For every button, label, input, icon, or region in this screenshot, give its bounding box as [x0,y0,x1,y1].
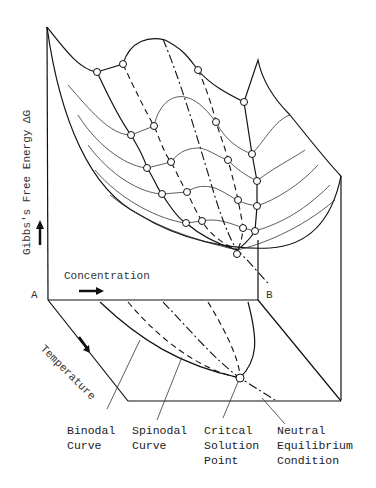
svg-text:Point: Point [204,454,239,467]
x-axis-label: Concentration [64,270,150,282]
annotation-neutral-equilibrium: Neutral Equilibrium Condition [277,424,353,467]
binodal-points [94,61,261,258]
surface-bottom-edge [47,27,341,248]
floor-right-edge [258,300,341,401]
annotation-spinodal: Spinodal Curve [132,424,187,452]
svg-text:Equilibrium: Equilibrium [277,439,353,452]
svg-text:Curve: Curve [67,439,102,452]
gibbs-energy-diagram: Gibbs's Free Energy ΔG Concentration Tem… [0,0,376,488]
binodal-projection [100,302,240,378]
corner-a-label: A [31,289,38,301]
svg-text:Spinodal: Spinodal [132,424,187,437]
svg-text:Binodal: Binodal [67,424,115,437]
y-axis-label: Gibbs's Free Energy ΔG [21,110,33,255]
down-right-arrow-icon [79,337,87,348]
svg-text:Solution: Solution [204,439,259,452]
spinodal-projection [128,302,240,378]
axis-edge-a [47,27,48,300]
svg-text:Condition: Condition [277,454,339,467]
critical-solution-point [236,374,244,382]
floor-left-edge [48,300,341,401]
annotation-critical-point: Critcal Solution Point [204,424,259,467]
svg-text:Critcal: Critcal [204,424,252,437]
annotation-binodal: Binodal Curve [67,424,115,452]
svg-text:Neutral: Neutral [277,424,325,437]
svg-text:Curve: Curve [132,439,167,452]
corner-b-label: B [266,289,273,301]
surface-top-edge [47,27,341,176]
